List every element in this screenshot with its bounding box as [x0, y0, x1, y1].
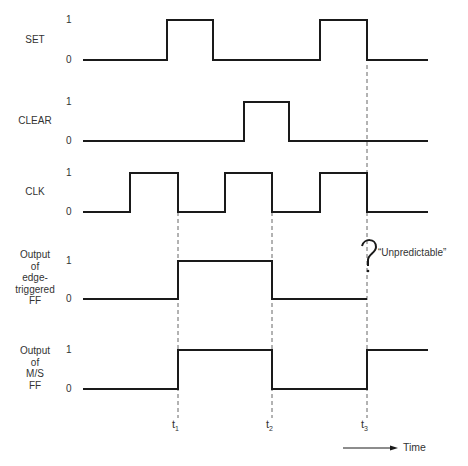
- waveform-ms-output: [83, 350, 428, 389]
- unpredictable-annotation: “Unpredictable”: [378, 247, 446, 258]
- question-mark-icon: [362, 240, 376, 272]
- timing-waveforms: [0, 0, 468, 466]
- waveform-clk: [83, 173, 428, 212]
- waveform-set: [83, 20, 428, 60]
- time-axis-label: Time: [403, 441, 426, 453]
- waveform-clear: [83, 102, 428, 141]
- time-marker-t3: t3: [361, 418, 368, 432]
- time-arrow-icon: [343, 446, 398, 451]
- time-marker-t1: t1: [172, 418, 179, 432]
- waveform-edge-triggered-output: [83, 261, 367, 299]
- time-marker-t2: t2: [266, 418, 273, 432]
